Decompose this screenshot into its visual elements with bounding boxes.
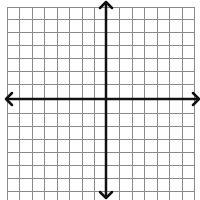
axes — [6, 2, 199, 198]
coordinate-plane — [0, 0, 200, 200]
grid-lines — [7, 7, 195, 200]
